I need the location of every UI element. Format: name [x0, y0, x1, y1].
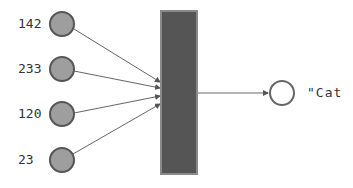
- connection-line: [74, 96, 160, 113]
- input-node: [50, 12, 74, 36]
- output-label: "Cat: [307, 85, 342, 100]
- hidden-layer: [161, 11, 197, 174]
- input-label: 233: [18, 61, 41, 76]
- input-label: 142: [18, 16, 41, 31]
- output-node: [270, 81, 294, 105]
- input-node: [50, 57, 74, 81]
- input-label: 120: [18, 106, 41, 121]
- input-node: [50, 102, 74, 126]
- connection-line: [73, 104, 160, 154]
- input-node: [50, 148, 74, 172]
- neural-network-diagram: [0, 0, 353, 188]
- input-label: 23: [18, 152, 34, 167]
